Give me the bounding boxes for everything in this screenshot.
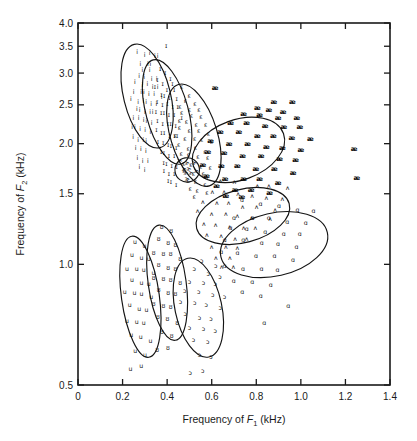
data-point-i: i <box>137 98 139 105</box>
data-point-ɑ: ɑ <box>229 224 233 231</box>
data-point-i: i <box>149 128 151 135</box>
data-point-ɑ: ɑ <box>286 302 290 309</box>
data-point-u: u <box>123 288 127 295</box>
data-point-ɪ: ɪ <box>159 65 161 72</box>
data-point-æ: æ <box>222 175 229 183</box>
data-point-ɛ: ɛ <box>180 83 183 90</box>
data-point-ɪ: ɪ <box>166 86 168 93</box>
data-point-ʌ: ʌ <box>250 192 254 199</box>
data-point-i: i <box>147 80 149 87</box>
data-point-ɛ: ɛ <box>184 97 187 104</box>
data-point-i: i <box>145 98 147 105</box>
data-point-ɛ: ɛ <box>204 121 207 128</box>
data-point-ɪ: ɪ <box>157 138 159 145</box>
data-point-u: u <box>148 337 152 344</box>
data-point-ɪ: ɪ <box>162 139 164 146</box>
data-point-ɑ: ɑ <box>240 196 244 203</box>
data-point-æ: æ <box>240 175 247 183</box>
data-point-ɪ: ɪ <box>168 132 170 139</box>
data-point-æ: æ <box>271 165 278 173</box>
data-point-i: i <box>149 108 151 115</box>
data-point-i: i <box>153 90 155 97</box>
data-point-ɑ: ɑ <box>258 200 262 207</box>
data-point-ʊ: ʊ <box>166 344 170 351</box>
y-tick-label: 1.5 <box>59 188 73 199</box>
data-point-ʊ: ʊ <box>155 346 159 353</box>
data-point-ɪ: ɪ <box>176 95 178 102</box>
x-tick-label: 0 <box>75 391 81 402</box>
data-point-æ: æ <box>354 174 361 182</box>
data-point-æ: æ <box>307 135 314 143</box>
data-point-ʊ: ʊ <box>173 241 177 248</box>
y-tick-label: 3.5 <box>59 41 73 52</box>
data-point-u: u <box>130 251 134 258</box>
data-point-æ: æ <box>262 122 269 130</box>
data-point-ʌ: ʌ <box>231 263 235 270</box>
data-point-ɛ: ɛ <box>193 100 196 107</box>
data-point-ʌ: ʌ <box>210 210 214 217</box>
data-point-ɔ: ɔ <box>200 257 204 264</box>
data-point-ʊ: ʊ <box>166 315 170 322</box>
data-point-ʌ: ʌ <box>267 182 271 189</box>
data-point-i: i <box>154 52 156 59</box>
data-point-æ: æ <box>212 84 219 92</box>
data-point-ɑ: ɑ <box>254 252 258 259</box>
data-point-ʌ: ʌ <box>222 188 226 195</box>
data-point-ɛ: ɛ <box>209 164 212 171</box>
data-point-ɔ: ɔ <box>193 299 197 306</box>
data-point-æ: æ <box>351 145 358 153</box>
data-point-ɪ: ɪ <box>162 80 164 87</box>
data-point-æ: æ <box>293 114 300 122</box>
data-point-ɔ: ɔ <box>211 291 215 298</box>
data-point-i: i <box>138 72 140 79</box>
data-point-ʊ: ʊ <box>160 328 164 335</box>
data-point-ɔ: ɔ <box>198 351 202 358</box>
data-point-ɔ: ɔ <box>179 298 183 305</box>
data-point-ɛ: ɛ <box>183 135 186 142</box>
data-point-ʊ: ʊ <box>170 332 174 339</box>
data-point-u: u <box>128 301 132 308</box>
data-point-æ: æ <box>279 144 286 152</box>
data-point-ɔ: ɔ <box>188 324 192 331</box>
data-point-ɛ: ɛ <box>200 136 203 143</box>
data-point-ʌ: ʌ <box>286 184 290 191</box>
data-point-ɪ: ɪ <box>165 42 167 49</box>
data-point-u: u <box>147 280 151 287</box>
data-point-i: i <box>151 119 153 126</box>
x-tick-label: 1.0 <box>294 391 308 402</box>
data-point-æ: æ <box>234 162 241 170</box>
data-point-u: u <box>139 362 143 369</box>
data-point-i: i <box>149 49 151 56</box>
data-point-ɔ: ɔ <box>202 325 206 332</box>
figure-background <box>0 0 417 441</box>
data-point-i: i <box>152 108 154 115</box>
data-point-ɔ: ɔ <box>214 262 218 269</box>
data-point-ɑ: ɑ <box>222 262 226 269</box>
data-point-u: u <box>143 242 147 249</box>
data-point-æ: æ <box>280 123 287 131</box>
data-point-i: i <box>146 117 148 124</box>
data-point-i: i <box>147 157 149 164</box>
data-point-ɪ: ɪ <box>173 86 175 93</box>
data-point-ɪ: ɪ <box>161 101 163 108</box>
data-point-æ: æ <box>199 161 206 169</box>
data-point-ʊ: ʊ <box>161 250 165 257</box>
data-point-i: i <box>133 88 135 95</box>
data-point-ʌ: ʌ <box>215 199 219 206</box>
data-point-ɑ: ɑ <box>267 214 271 221</box>
data-point-ɑ: ɑ <box>245 225 249 232</box>
data-point-ɛ: ɛ <box>178 124 181 131</box>
data-point-i: i <box>144 166 146 173</box>
data-point-ɪ: ɪ <box>156 76 158 83</box>
data-point-æ: æ <box>218 162 225 170</box>
x-tick-label: 0.6 <box>205 391 219 402</box>
data-point-u: u <box>133 347 137 354</box>
data-point-æ: æ <box>275 114 282 122</box>
data-point-ɑ: ɑ <box>269 281 273 288</box>
data-point-ɛ: ɛ <box>185 118 188 125</box>
data-point-æ: æ <box>226 140 233 148</box>
data-point-ɪ: ɪ <box>163 109 165 116</box>
data-point-i: i <box>132 133 134 140</box>
data-point-ʊ: ʊ <box>152 249 156 256</box>
data-point-ʌ: ʌ <box>224 243 228 250</box>
